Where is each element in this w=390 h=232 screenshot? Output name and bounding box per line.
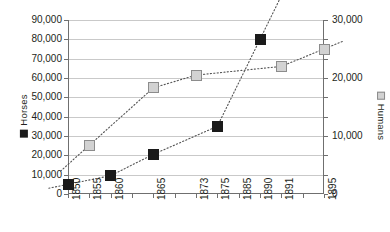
series-line-humans — [61, 41, 344, 171]
data-point-humans — [84, 140, 95, 151]
data-point-horses — [148, 149, 159, 160]
y-axis-left-tick-label: 0 — [56, 189, 62, 199]
y-axis-right-tick — [324, 97, 328, 98]
legend-humans: Humans — [377, 92, 387, 141]
y-axis-left-tick-label: 10,000 — [31, 170, 62, 180]
legend-humans-swatch-icon — [378, 92, 386, 100]
y-axis-right-tick — [324, 39, 328, 40]
x-axis-tick — [324, 194, 325, 198]
x-axis-tick — [68, 194, 69, 198]
x-axis-tick-label: 1860 — [115, 178, 125, 200]
x-axis-tick-label: 1850 — [72, 178, 82, 200]
y-axis-right-tick — [324, 78, 328, 79]
legend-humans-label: Humans — [377, 104, 387, 141]
y-axis-right-tick — [324, 175, 328, 176]
y-axis-left-tick-label: 60,000 — [31, 73, 62, 83]
x-axis-tick — [260, 194, 261, 198]
chart-container: Horses Humans 010,00020,00030,00040,0005… — [0, 0, 390, 232]
y-axis-right-tick-label: 10,000 — [332, 131, 363, 141]
x-axis-tick — [217, 194, 218, 198]
x-axis-tick-label: 1875 — [221, 178, 231, 200]
x-axis-tick-label: 1891 — [285, 178, 295, 200]
y-axis-right-tick — [324, 20, 328, 21]
x-axis-tick — [89, 194, 90, 198]
x-axis-tick — [132, 194, 133, 198]
series-line-horses — [49, 0, 279, 188]
y-axis-left-tick-label: 70,000 — [31, 54, 62, 64]
y-axis-right-tick — [324, 117, 328, 118]
y-axis-left-tick-label: 50,000 — [31, 92, 62, 102]
data-point-horses — [255, 34, 266, 45]
data-point-humans — [148, 82, 159, 93]
data-point-humans — [319, 44, 330, 55]
y-axis-left-tick-label: 30,000 — [31, 131, 62, 141]
x-axis-tick — [303, 194, 304, 198]
y-axis-right-labels: 010,00020,00030,000 — [332, 20, 378, 194]
y-axis-right-tick — [324, 155, 328, 156]
y-axis-right-tick — [324, 59, 328, 60]
x-axis-tick — [196, 194, 197, 198]
y-axis-left-tick-label: 20,000 — [31, 150, 62, 160]
plot-area — [68, 20, 324, 194]
x-axis-tick — [281, 194, 282, 198]
y-axis-left-tick-label: 90,000 — [31, 15, 62, 25]
y-axis-left-labels: 010,00020,00030,00040,00050,00060,00070,… — [16, 20, 62, 194]
x-axis-tick-label: 1865 — [157, 178, 167, 200]
x-axis-tick — [111, 194, 112, 198]
x-axis-tick — [239, 194, 240, 198]
x-axis-tick-label: 1885 — [243, 178, 253, 200]
y-axis-left-tick-label: 80,000 — [31, 34, 62, 44]
x-axis-tick-label: 1890 — [264, 178, 274, 200]
series-lines — [68, 20, 324, 194]
x-axis-tick-label: 1895 — [328, 178, 338, 200]
y-axis-right-tick-label: 30,000 — [332, 15, 363, 25]
y-axis-right-tick — [324, 136, 328, 137]
x-axis-tick — [153, 194, 154, 198]
x-axis-tick — [175, 194, 176, 198]
data-point-humans — [276, 61, 287, 72]
y-axis-right-tick-label: 20,000 — [332, 73, 363, 83]
y-axis-left-tick-label: 40,000 — [31, 112, 62, 122]
x-axis-tick-label: 1855 — [93, 178, 103, 200]
data-point-humans — [191, 70, 202, 81]
x-axis-tick-label: 1873 — [200, 178, 210, 200]
data-point-horses — [212, 121, 223, 132]
